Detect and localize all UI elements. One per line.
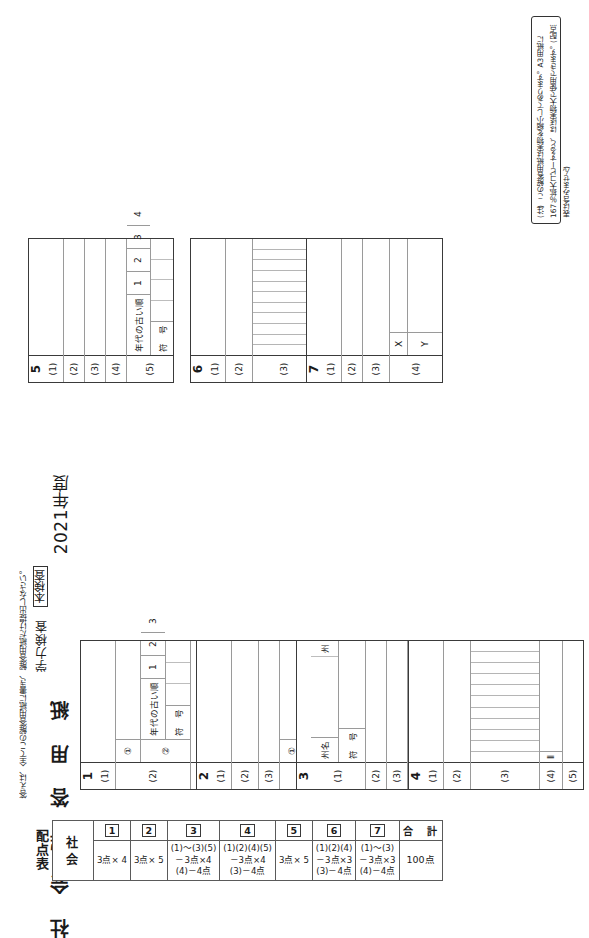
q1-answer-2-a[interactable] [166,683,190,705]
q2-row-3[interactable]: (3) [259,641,280,789]
q3-number-row: 3 [296,640,311,790]
q2-answer-3[interactable] [259,641,279,762]
q4-answer-3-cell[interactable] [471,718,539,729]
score-subject: 社 会 [53,821,94,881]
q1-answer-2-sub1[interactable] [116,641,140,739]
q6-row-1[interactable]: (1) [205,239,226,382]
q1-answer-2-c[interactable] [166,641,190,662]
q4-row-5[interactable]: (5) [563,641,583,789]
score-header-q3: 3 [167,821,220,841]
q4-answer-4[interactable] [540,641,562,751]
q7-answer-1[interactable] [321,239,341,355]
q1-sub-2: ② [141,739,190,762]
q4-answer-3-cell[interactable] [471,695,539,706]
q5-seq-4: 4 [127,203,150,225]
q7-row-4[interactable]: (4) X Y [390,239,442,382]
question-group-6: 6 (1) (2) (3) [190,238,278,383]
question-group-4: 4 (1) (2) (3) [408,640,520,790]
q5-answer-3[interactable] [85,239,105,355]
q5-row-3[interactable]: (3) [85,239,106,382]
q5-answer-1[interactable] [43,239,63,355]
q6-answer-1[interactable] [205,239,225,355]
q5-answer-2[interactable] [64,239,84,355]
q1-answer-1[interactable] [95,641,115,762]
score-table-header-row: 社 会 1 2 3 4 5 6 7 合 計 [53,821,443,841]
q4-answer-3-cell[interactable] [471,740,539,751]
q5-row-5[interactable]: (5) 年代の古い順 1 2 3 4 符 号 [127,239,173,382]
q4-row-1[interactable]: (1) [423,641,444,789]
q6-number: 6 [191,355,205,382]
q4-answer-1[interactable] [423,641,443,762]
q5-label-5: (5) [127,355,173,382]
q1-row-2[interactable]: (2) ① ② 年代の古い順 1 2 [116,641,191,789]
q4-row-3[interactable]: (3) [471,641,540,789]
q3-label-3: (3) [387,762,407,789]
q7-answer-4-y[interactable] [408,239,442,332]
q1-seq-2: 2 [141,632,165,655]
q3-row-3[interactable]: (3) [387,641,408,789]
q4-answer-3-grid[interactable] [471,641,539,762]
score-table-points-row: 3点× 4 3点× 5 (1)～(3)(5) －3点×4 (4)－4点 (1)(… [53,841,443,881]
q7-number: 7 [307,355,321,382]
q4-row-2[interactable]: (2) [444,641,471,789]
q7-answer-3[interactable] [363,239,389,355]
q2-row-1[interactable]: (1) [211,641,232,789]
q5-number-row: 5 [28,238,43,383]
q5-row-1[interactable]: (1) [43,239,64,382]
q5-answer-5-c[interactable] [151,259,174,280]
q1-answer-2-b[interactable] [166,662,190,684]
q7-answer-4-x[interactable] [390,239,407,332]
q3-tag-state: 州 [311,641,338,656]
q5-number: 5 [29,355,43,382]
q1-tag-sign: 符 号 [166,705,190,739]
q5-row-4[interactable]: (4) [106,239,127,382]
q7-row-3[interactable]: (3) [363,239,390,382]
q3-row-1[interactable]: (1) 州名 州 符 号 [311,641,366,789]
q7-row-1[interactable]: (1) [321,239,342,382]
q4-answer-3-cell[interactable] [471,641,539,651]
q5-answer-5-d[interactable] [151,239,174,259]
q4-answer-2[interactable] [444,641,470,762]
q2-answer-2[interactable] [232,641,258,762]
q7-row-2[interactable]: (2) [342,239,363,382]
q3-row-2[interactable]: (2) [366,641,387,789]
q7-label-4: (4) [390,355,442,382]
score-table-title: 配点表 [30,820,52,881]
q4-answer-3-cell[interactable] [471,684,539,695]
score-points-q3: (1)～(3)(5) －3点×4 (4)－4点 [167,841,220,881]
q4-label-2: (2) [444,762,470,789]
q6-row-2[interactable]: (2) [226,239,253,382]
q5-row-2[interactable]: (2) [64,239,85,382]
q3-answer-2[interactable] [366,641,386,762]
q4-answer-3-cell[interactable] [471,673,539,684]
q2-label-2: (2) [232,762,258,789]
q3-answer-3[interactable] [387,641,407,762]
score-points-q7: (1)～(3) －3点×3 (4)－4点 [356,841,399,881]
q4-answer-3-cell[interactable] [471,751,539,762]
q5-answer-5-a[interactable] [151,300,174,321]
q5-answer-5-b[interactable] [151,280,174,301]
q2-answer-1[interactable] [211,641,231,762]
q1-tag-order-old: 年代の古い順 [141,678,165,739]
score-points-q6: (1)(2)(4) －3点×3 (3)－4点 [312,841,356,881]
q6-number-row: 6 [190,238,205,383]
q4-answer-3-cell[interactable] [471,662,539,673]
q3-answer-1-name[interactable] [311,656,338,737]
q5-label-1: (1) [43,355,63,382]
q5-answer-4[interactable] [106,239,126,355]
q4-answer-3-cell[interactable] [471,651,539,662]
q7-tag-x: X [390,332,407,355]
q3-answer-1-sign[interactable] [339,641,366,728]
q1-row-1[interactable]: (1) [95,641,116,789]
q6-answer-2[interactable] [226,239,252,355]
q4-answer-3-cell[interactable] [471,707,539,718]
score-total-value: 100点 [399,841,442,881]
title-block: 2021年度 本検査 学力検査 社 会 解 答 用 紙 答えは、全てこの解答用紙… [6,470,70,815]
q4-row-4[interactable]: (4) Ⅱ [540,641,563,789]
q4-answer-3-cell[interactable] [471,729,539,740]
q7-answer-2[interactable] [342,239,362,355]
q4-label-5: (5) [563,762,583,789]
q4-answer-5[interactable] [563,641,583,762]
q2-row-2[interactable]: (2) [232,641,259,789]
